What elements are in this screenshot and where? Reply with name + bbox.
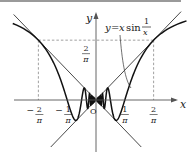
func-label-x: x [119,22,125,33]
x-axis-arrow-icon [171,98,178,103]
x-axis-label: x [180,98,187,111]
y-tick-label: 2π [82,44,90,64]
tick-denominator: π [82,55,89,64]
origin-label: O [90,107,97,116]
plot: x y O y = x sin 1 x −2π−1π1π2π2π [0,0,190,159]
func-label-sin: sin [126,22,141,33]
tick-sign: − [26,105,34,115]
x-tick-label: −1π [55,105,72,125]
tick-denominator: π [65,116,72,125]
diagram: x y O y = x sin 1 x −2π−1π1π2π2π [0,0,190,159]
tick-numerator: 2 [37,105,42,114]
tick-numerator: 1 [66,105,71,114]
label-pointer-line [120,35,131,88]
y-axis-label: y [85,12,93,25]
tick-denominator: π [36,116,43,125]
tick-denominator: π [121,116,128,125]
tick-numerator: 1 [122,105,127,114]
tick-denominator: π [150,116,157,125]
func-label-den: x [143,28,148,37]
func-label-num: 1 [144,17,149,26]
x-tick-label: −2π [26,105,43,125]
function-label: y = x sin 1 x [104,17,151,37]
tick-numerator: 2 [151,105,156,114]
y-axis-arrow-icon [94,12,99,19]
func-label-y: y [104,22,111,33]
tick-numerator: 2 [83,44,88,53]
x-tick-label: 2π [150,105,158,125]
tick-sign: − [55,105,63,115]
x-tick-label: 1π [121,105,129,125]
